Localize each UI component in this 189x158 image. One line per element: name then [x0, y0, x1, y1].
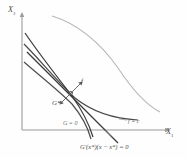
- tangent-equation-label: G'(x*)(x − x*) = 0: [80, 144, 128, 151]
- gradient-g-star-label: G*: [52, 100, 61, 107]
- constraint-curve-label: G = 0: [63, 120, 77, 126]
- line-tangent-hyperplane: [27, 52, 118, 143]
- y-axis-arrow-icon: [20, 12, 25, 17]
- axes-group: [20, 12, 170, 132]
- y-axis-label: X2: [8, 6, 15, 17]
- curve-constraint-g-zero: [25, 33, 93, 137]
- x-axis-label: X1: [166, 128, 173, 139]
- curve-outer-level: [52, 16, 160, 112]
- diagram-svg: [0, 0, 189, 158]
- objective-level-curve-label: f = c: [128, 118, 139, 124]
- figure-canvas: X2 X1 f G* G = 0 f = c G'(x*)(x − x*) = …: [0, 0, 189, 158]
- gradient-f-label: f: [81, 78, 83, 85]
- gradient-vector-g-star: [59, 93, 71, 105]
